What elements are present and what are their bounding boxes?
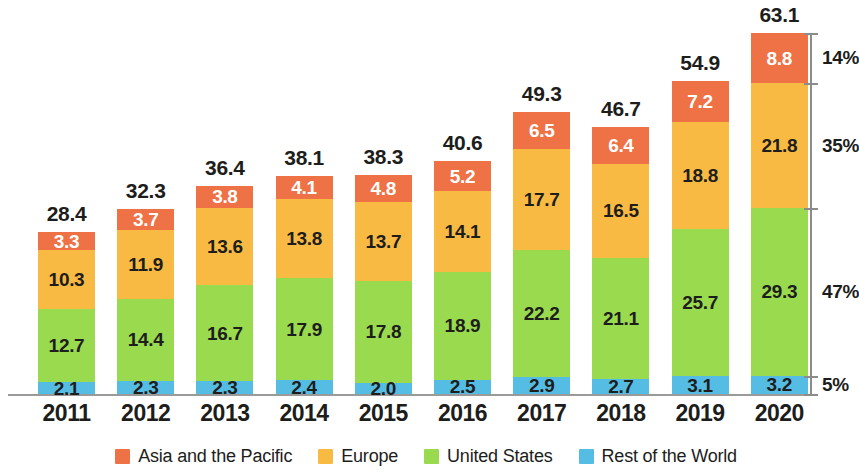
bar-segment-asia-and-the-pacific[interactable]: 3.7 [117, 209, 174, 230]
bar-total-label: 32.3 [126, 179, 166, 203]
percent-axis-tick [804, 33, 818, 35]
segment-value-label: 17.7 [524, 190, 560, 209]
percent-axis-label: 14% [822, 47, 859, 69]
legend-item-united-states[interactable]: United States [424, 446, 552, 467]
segment-value-label: 2.9 [529, 376, 555, 395]
percent-axis-tick [804, 394, 818, 396]
segment-value-label: 2.4 [291, 378, 317, 397]
bar-segment-asia-and-the-pacific[interactable]: 3.8 [196, 186, 253, 208]
bar-segment-asia-and-the-pacific[interactable]: 4.1 [276, 176, 333, 199]
segment-value-label: 14.1 [445, 222, 481, 241]
segment-value-label: 21.1 [603, 309, 639, 328]
bar-2018[interactable]: 46.76.416.521.12.7 [592, 127, 649, 394]
bar-segment-asia-and-the-pacific[interactable]: 8.8 [751, 33, 808, 83]
secondary-percent-axis: 14%35%47%5% [804, 0, 852, 396]
segment-value-label: 3.2 [767, 375, 793, 394]
bar-segment-united-states[interactable]: 14.4 [117, 299, 174, 381]
bar-segment-united-states[interactable]: 22.2 [513, 250, 570, 377]
bar-segment-rest-of-the-world[interactable]: 2.5 [434, 380, 491, 394]
bar-segment-united-states[interactable]: 17.9 [276, 278, 333, 380]
bar-segment-rest-of-the-world[interactable]: 2.3 [196, 381, 253, 394]
segment-value-label: 29.3 [761, 282, 797, 301]
bar-2013[interactable]: 36.43.813.616.72.3 [196, 186, 253, 394]
segment-value-label: 18.9 [445, 316, 481, 335]
segment-value-label: 10.3 [49, 270, 85, 289]
bar-segment-europe[interactable]: 14.1 [434, 191, 491, 272]
bar-2016[interactable]: 40.65.214.118.92.5 [434, 161, 491, 394]
legend-label: Rest of the World [602, 446, 737, 467]
segment-value-label: 17.9 [286, 320, 322, 339]
bar-segment-rest-of-the-world[interactable]: 2.7 [592, 379, 649, 394]
segment-value-label: 3.3 [54, 232, 80, 251]
bar-total-label: 63.1 [759, 3, 799, 27]
segment-value-label: 18.8 [682, 166, 718, 185]
bar-segment-asia-and-the-pacific[interactable]: 7.2 [672, 81, 729, 122]
segment-value-label: 3.1 [687, 376, 713, 395]
bar-segment-united-states[interactable]: 16.7 [196, 285, 253, 381]
legend-swatch-icon [115, 449, 130, 464]
bar-segment-asia-and-the-pacific[interactable]: 3.3 [38, 232, 95, 251]
x-axis-label-2012: 2012 [117, 400, 174, 427]
bar-2011[interactable]: 28.43.310.312.72.1 [38, 232, 95, 394]
segment-value-label: 25.7 [682, 293, 718, 312]
bar-segment-europe[interactable]: 17.7 [513, 149, 570, 250]
segment-value-label: 14.4 [128, 330, 164, 349]
bar-segment-europe[interactable]: 18.8 [672, 122, 729, 230]
bar-segment-asia-and-the-pacific[interactable]: 4.8 [355, 175, 412, 202]
bar-2014[interactable]: 38.14.113.817.92.4 [276, 176, 333, 394]
bar-segment-united-states[interactable]: 12.7 [38, 309, 95, 382]
bar-segment-rest-of-the-world[interactable]: 2.1 [38, 382, 95, 394]
segment-value-label: 6.5 [529, 121, 555, 140]
legend-label: United States [447, 446, 552, 467]
chart-legend: Asia and the PacificEuropeUnited StatesR… [0, 446, 852, 467]
x-axis-label-2014: 2014 [276, 400, 333, 427]
bar-total-label: 38.3 [363, 145, 403, 169]
bar-2017[interactable]: 49.36.517.722.22.9 [513, 112, 570, 394]
bar-2019[interactable]: 54.97.218.825.73.1 [672, 81, 729, 394]
percent-axis-tick [804, 376, 818, 378]
bar-segment-asia-and-the-pacific[interactable]: 6.5 [513, 112, 570, 149]
bar-segment-asia-and-the-pacific[interactable]: 6.4 [592, 127, 649, 164]
bar-segment-united-states[interactable]: 29.3 [751, 208, 808, 376]
segment-value-label: 22.2 [524, 304, 560, 323]
x-axis-label-2018: 2018 [592, 400, 649, 427]
percent-axis-label: 35% [822, 135, 859, 157]
bar-segment-rest-of-the-world[interactable]: 2.3 [117, 381, 174, 394]
segment-value-label: 2.3 [133, 378, 159, 397]
bar-segment-united-states[interactable]: 21.1 [592, 258, 649, 379]
bar-segment-rest-of-the-world[interactable]: 2.0 [355, 383, 412, 394]
bar-2015[interactable]: 38.34.813.717.82.0 [355, 175, 412, 394]
legend-item-europe[interactable]: Europe [318, 446, 398, 467]
plot-area: 28.43.310.312.72.132.33.711.914.42.336.4… [0, 0, 852, 396]
segment-value-label: 17.8 [365, 322, 401, 341]
segment-value-label: 13.7 [365, 232, 401, 251]
legend-item-asia-and-the-pacific[interactable]: Asia and the Pacific [115, 446, 292, 467]
x-axis-label-2015: 2015 [355, 400, 412, 427]
percent-axis-tick [804, 83, 818, 85]
segment-value-label: 2.3 [212, 378, 238, 397]
bar-2020[interactable]: 63.18.821.829.33.2 [751, 33, 808, 394]
bar-segment-europe[interactable]: 21.8 [751, 83, 808, 208]
bar-2012[interactable]: 32.33.711.914.42.3 [117, 209, 174, 394]
bar-total-label: 49.3 [522, 82, 562, 106]
segment-value-label: 16.5 [603, 201, 639, 220]
bar-segment-europe[interactable]: 10.3 [38, 250, 95, 309]
bar-segment-europe[interactable]: 13.7 [355, 202, 412, 280]
bar-segment-europe[interactable]: 16.5 [592, 164, 649, 258]
x-axis-labels: 2011201220132014201520162017201820192020 [0, 400, 852, 434]
legend-item-rest-of-the-world[interactable]: Rest of the World [579, 446, 737, 467]
bar-segment-rest-of-the-world[interactable]: 2.9 [513, 377, 570, 394]
bar-segment-europe[interactable]: 13.8 [276, 199, 333, 278]
segment-value-label: 4.1 [291, 178, 317, 197]
bar-segment-united-states[interactable]: 25.7 [672, 229, 729, 376]
bar-total-label: 36.4 [205, 156, 245, 180]
bar-segment-rest-of-the-world[interactable]: 3.2 [751, 376, 808, 394]
bar-segment-europe[interactable]: 13.6 [196, 208, 253, 286]
bar-segment-europe[interactable]: 11.9 [117, 230, 174, 298]
bar-segment-united-states[interactable]: 18.9 [434, 272, 491, 380]
bar-segment-asia-and-the-pacific[interactable]: 5.2 [434, 161, 491, 191]
bar-segment-united-states[interactable]: 17.8 [355, 281, 412, 383]
bar-segment-rest-of-the-world[interactable]: 2.4 [276, 380, 333, 394]
bar-segment-rest-of-the-world[interactable]: 3.1 [672, 376, 729, 394]
